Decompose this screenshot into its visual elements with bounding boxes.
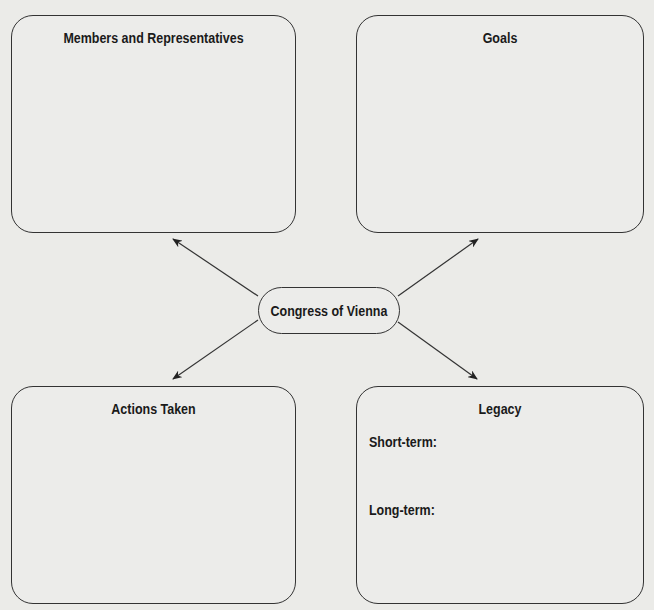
- arrow-to-goals: [398, 239, 478, 296]
- arrow-to-actions: [173, 320, 258, 379]
- actions-box: Actions Taken: [11, 386, 296, 604]
- goals-title: Goals: [377, 30, 623, 46]
- members-box: Members and Representatives: [11, 15, 296, 233]
- legacy-box: Legacy Short-term: Long-term:: [356, 386, 644, 604]
- legacy-title: Legacy: [377, 401, 623, 417]
- central-topic-label: Congress of Vienna: [271, 303, 388, 319]
- actions-title: Actions Taken: [32, 401, 275, 417]
- long-term-label: Long-term:: [369, 502, 435, 518]
- goals-box: Goals: [356, 15, 644, 233]
- arrow-to-members: [173, 239, 258, 296]
- central-topic: Congress of Vienna: [258, 287, 400, 334]
- members-title: Members and Representatives: [32, 30, 275, 46]
- short-term-label: Short-term:: [369, 434, 437, 450]
- arrow-to-legacy: [398, 322, 477, 379]
